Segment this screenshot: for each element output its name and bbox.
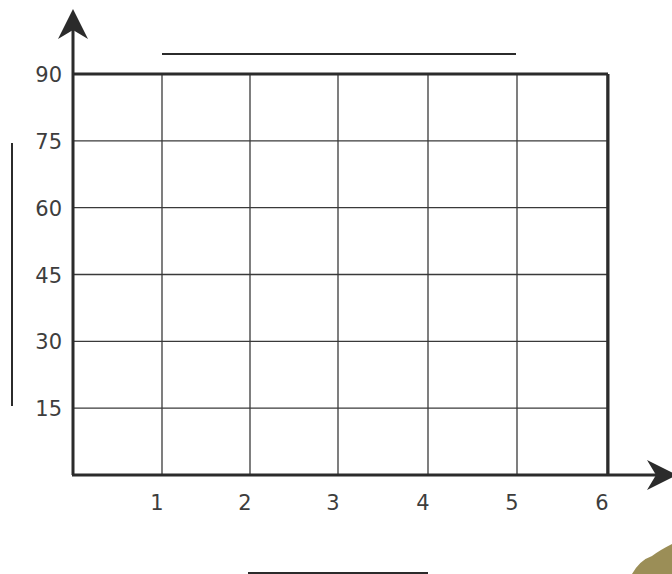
x-tick-label: 3 [326, 491, 339, 515]
x-tick-labels: 123456 [150, 491, 608, 515]
empty-grid-chart: 153045607590 123456 [0, 0, 672, 574]
corner-decoration-icon [632, 544, 672, 574]
y-tick-label: 60 [35, 197, 62, 221]
y-tick-label: 90 [35, 63, 62, 87]
x-tick-label: 2 [238, 491, 251, 515]
y-tick-label: 30 [35, 330, 62, 354]
y-tick-labels: 153045607590 [35, 63, 62, 421]
axes [72, 24, 662, 475]
x-tick-label: 1 [150, 491, 163, 515]
x-tick-label: 4 [416, 491, 429, 515]
y-tick-label: 45 [35, 264, 62, 288]
grid-lines [73, 74, 608, 475]
y-tick-label: 15 [35, 397, 62, 421]
y-tick-label: 75 [35, 130, 62, 154]
x-tick-label: 5 [505, 491, 518, 515]
x-tick-label: 6 [595, 491, 608, 515]
